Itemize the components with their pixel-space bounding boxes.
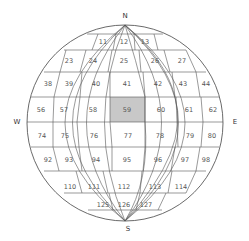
grid-cell-label-77: 77	[124, 132, 132, 140]
grid-cell-label-43: 43	[179, 80, 187, 88]
grid-cell-label-60: 60	[157, 106, 165, 114]
grid-cell-label-24: 24	[89, 57, 97, 65]
grid-cell-label-125: 125	[97, 201, 109, 209]
grid-cell-label-41: 41	[123, 80, 131, 88]
grid-cell-label-111: 111	[88, 183, 100, 191]
globe-diagram: N S W E 11121323242526273839404142434456…	[0, 0, 249, 241]
grid-cell-label-61: 61	[185, 106, 193, 114]
grid-cell-label-40: 40	[92, 80, 100, 88]
grid-cell-label-94: 94	[92, 156, 100, 164]
grid-cell-label-62: 62	[209, 106, 217, 114]
grid-cell-label-58: 58	[89, 106, 97, 114]
grid-cell-label-25: 25	[120, 57, 128, 65]
grid-cell-label-79: 79	[186, 132, 194, 140]
grid-cell-label-97: 97	[181, 156, 189, 164]
grid-cell-label-56: 56	[37, 106, 45, 114]
grid-cell-label-75: 75	[61, 132, 69, 140]
grid-cell-label-38: 38	[44, 80, 52, 88]
compass-south: S	[126, 225, 131, 233]
grid-cell-label-92: 92	[44, 156, 52, 164]
grid-cell-label-11: 11	[99, 38, 107, 46]
grid-cell-label-12: 12	[120, 38, 128, 46]
grid-cell-label-76: 76	[90, 132, 98, 140]
grid-cell-label-95: 95	[123, 156, 131, 164]
grid-cell-label-96: 96	[154, 156, 162, 164]
grid-cell-label-80: 80	[208, 132, 216, 140]
cell-labels: 1112132324252627383940414243445657585960…	[37, 38, 217, 209]
grid-cell-label-13: 13	[141, 38, 149, 46]
grid-cell-label-74: 74	[38, 132, 46, 140]
compass-west: W	[14, 118, 21, 126]
grid-cell-label-44: 44	[202, 80, 210, 88]
grid-cell-label-98: 98	[202, 156, 210, 164]
grid-cell-label-59: 59	[123, 106, 131, 114]
grid-cell-label-93: 93	[65, 156, 73, 164]
grid-cell-label-42: 42	[154, 80, 162, 88]
grid-cell-label-127: 127	[140, 201, 152, 209]
grid-cell-label-112: 112	[118, 183, 130, 191]
grid-cell-label-23: 23	[65, 57, 73, 65]
grid-cell-label-78: 78	[156, 132, 164, 140]
grid-cell-label-114: 114	[175, 183, 187, 191]
longitude-lines	[65, 25, 185, 221]
grid-cell-label-27: 27	[178, 57, 186, 65]
grid-cell-label-26: 26	[151, 57, 159, 65]
compass-east: E	[233, 118, 237, 126]
grid-cell-label-110: 110	[64, 183, 76, 191]
grid-cell-label-126: 126	[118, 201, 130, 209]
compass-north: N	[122, 12, 127, 20]
globe-outline	[27, 25, 223, 221]
grid-cell-label-39: 39	[65, 80, 73, 88]
grid-cell-label-57: 57	[60, 106, 68, 114]
grid-cell-label-113: 113	[149, 183, 161, 191]
